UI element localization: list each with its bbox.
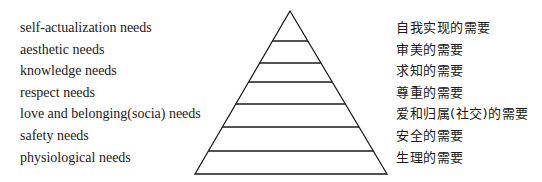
pyramid-dividers [208,41,373,151]
level-label-zh-1: 自我实现的需要 [396,20,491,36]
level-label-zh-6: 安全的需要 [396,128,464,144]
level-label-zh-4: 尊重的需要 [396,85,464,101]
level-label-zh-2: 审美的需要 [396,42,464,58]
level-label-zh-5: 爱和归属(社交)的需要 [396,106,529,122]
pyramid-outline [195,11,387,174]
level-label-zh-3: 求知的需要 [396,63,464,79]
level-label-zh-7: 生理的需要 [396,150,464,166]
